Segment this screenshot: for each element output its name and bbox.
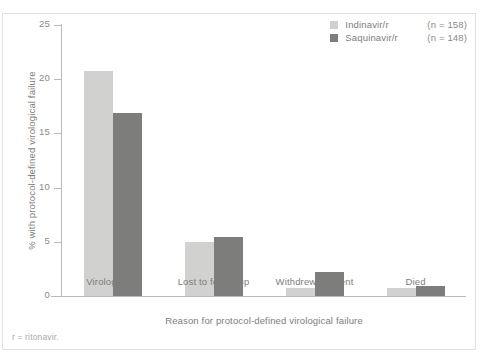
- y-axis-tick-label: 25: [39, 18, 50, 29]
- y-axis-tick-mark: [54, 296, 61, 297]
- x-axis-category-label: Died: [365, 276, 466, 287]
- bar-group: [185, 25, 243, 296]
- bar-indinavir: [387, 288, 416, 296]
- y-axis-tick-label: 10: [39, 181, 50, 192]
- bar-indinavir: [84, 71, 113, 296]
- x-axis-category-label: Virologically: [62, 276, 163, 287]
- plot-area: 0510152025: [62, 25, 466, 296]
- bar-indinavir: [286, 288, 315, 296]
- y-axis-tick-label: 5: [45, 235, 50, 246]
- x-axis-line: [51, 296, 466, 297]
- y-axis-tick-mark: [54, 133, 61, 134]
- y-axis-tick-label: 0: [45, 289, 50, 300]
- x-axis-title: Reason for protocol-defined virological …: [62, 315, 466, 326]
- y-axis-tick-mark: [54, 242, 61, 243]
- y-axis-tick-mark: [54, 79, 61, 80]
- chart-footnote: r = ritonavir.: [12, 332, 59, 342]
- y-axis-tick-label: 20: [39, 72, 50, 83]
- figure-bar-chart: Indinavir/r (n = 158) Saquinavir/r (n = …: [0, 0, 481, 354]
- bar-indinavir: [185, 242, 214, 296]
- bar-group: [84, 25, 142, 296]
- bar-saquinavir: [214, 237, 243, 296]
- bar-group: [387, 25, 445, 296]
- x-axis-category-label: Lost to follow-up: [163, 276, 264, 287]
- y-axis-tick-label: 15: [39, 126, 50, 137]
- bar-group: [286, 25, 344, 296]
- y-axis-tick-mark: [54, 25, 61, 26]
- y-axis-tick-mark: [54, 188, 61, 189]
- bar-saquinavir: [113, 113, 142, 296]
- bar-saquinavir: [416, 286, 445, 296]
- y-axis-title: % with protocol-defined virological fail…: [26, 25, 40, 296]
- x-axis-category-label: Withdrew consent: [264, 276, 365, 287]
